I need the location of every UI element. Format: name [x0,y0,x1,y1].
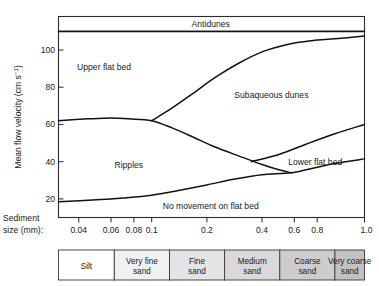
bedform-stability-figure: 100 80 60 40 20 Mean flow velocity (cm s… [0,0,379,286]
curve-ripples-upper-boundary [59,118,292,173]
x-tick-label-0.6: 0.6 [288,225,300,235]
sediment-label-fine-sand-line1: Fine [189,257,205,266]
y-tick-label-80: 80 [45,82,55,92]
sediment-scale-bar: Silt Very fine sand Fine sand Medium san… [59,250,372,280]
x-axis-title-line2: size (mm): [3,225,43,235]
x-tick-label-0.1: 0.1 [146,225,158,235]
x-axis-tick-labels: 0.04 0.06 0.08 0.1 0.2 0.4 0.6 0.8 1.0 [70,225,372,235]
sediment-label-medium-sand-line1: Medium [238,257,267,266]
field-label-subaqueous-dunes: Subaqueous dunes [234,90,308,100]
x-tick-label-0.2: 0.2 [201,225,213,235]
y-tick-label-20: 20 [45,194,55,204]
figure-svg: 100 80 60 40 20 Mean flow velocity (cm s… [0,0,379,286]
y-axis-title-close: ) [13,65,23,68]
y-axis-ticks [59,50,64,199]
curves-group [59,31,365,201]
sediment-label-very-fine-sand-line1: Very fine [126,257,158,266]
x-axis-title-line1: Sediment [3,213,40,223]
sediment-label-very-fine-sand-line2: sand [133,267,151,276]
x-tick-label-1.0: 1.0 [361,225,373,235]
x-tick-label-0.8: 0.8 [311,225,323,235]
x-tick-label-0.08: 0.08 [126,225,143,235]
field-label-ripples: Ripples [114,160,143,170]
field-label-antidunes: Antidunes [192,19,230,29]
y-axis-title: Mean flow velocity (cm s−1) [12,65,23,169]
sediment-label-fine-sand-line2: sand [188,267,206,276]
y-tick-label-100: 100 [41,45,56,55]
field-label-no-movement: No movement on flat bed [163,201,259,211]
field-label-lower-flat-bed: Lower flat bed [288,157,342,167]
x-tick-label-0.06: 0.06 [103,225,120,235]
sediment-label-coarse-sand-line2: sand [299,267,317,276]
sediment-label-very-coarse-sand-line2: sand [341,267,359,276]
y-axis-title-main: Mean flow velocity (cm s [13,75,23,169]
x-tick-label-0.4: 0.4 [256,225,268,235]
x-tick-label-0.04: 0.04 [70,225,87,235]
plot-frame [59,17,365,218]
y-axis-title-group: Mean flow velocity (cm s−1) [12,65,23,169]
sediment-label-silt-line1: Silt [81,262,93,271]
y-tick-label-60: 60 [45,119,55,129]
x-axis-ticks [79,218,365,223]
sediment-label-very-coarse-sand-line1: Very coarse [328,257,372,266]
sediment-label-medium-sand-line2: sand [243,267,261,276]
curve-upper-flat-bed-upper-boundary [152,36,365,121]
field-label-upper-flat-bed: Upper flat bed [77,62,131,72]
y-axis-tick-labels: 100 80 60 40 20 [41,45,56,204]
sediment-label-coarse-sand-line1: Coarse [294,257,321,266]
y-tick-label-40: 40 [45,157,55,167]
